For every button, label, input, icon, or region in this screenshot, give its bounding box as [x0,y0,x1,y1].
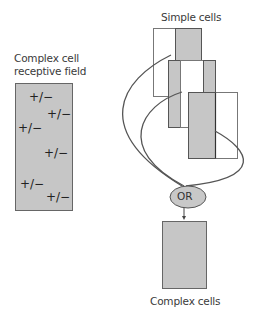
polarity-symbol: +/− [29,91,53,103]
polarity-symbol: +/− [20,178,44,190]
arrow-head-icon [182,216,186,220]
or-gate-label: OR [177,190,193,203]
complex-cells-label: Complex cells [150,295,220,308]
complex-cell-box [163,222,207,289]
simple-cell-3 [189,93,238,159]
diagram-canvas [0,0,258,318]
simple-cells-label: Simple cells [161,11,221,24]
polarity-symbol: +/− [44,147,68,159]
polarity-symbol: +/− [18,122,42,134]
polarity-symbol: +/− [46,191,70,203]
polarity-symbol: +/− [47,108,71,120]
